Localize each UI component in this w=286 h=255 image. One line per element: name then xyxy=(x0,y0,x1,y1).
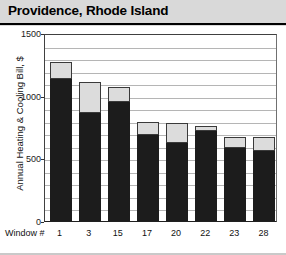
bar-stack[interactable] xyxy=(224,137,246,221)
y-tick-mark xyxy=(41,222,44,223)
bar-stack[interactable] xyxy=(253,137,275,221)
bar-segment-cooling[interactable] xyxy=(79,82,101,113)
bar-stack[interactable] xyxy=(79,82,101,221)
bar-stack[interactable] xyxy=(108,87,130,221)
bar-segment-heating[interactable] xyxy=(108,102,130,221)
bar-segment-cooling[interactable] xyxy=(108,87,130,102)
x-tick-label: 28 xyxy=(246,228,280,238)
bar-segment-heating[interactable] xyxy=(166,143,188,221)
plot-area xyxy=(44,34,277,222)
chart-figure: Providence, Rhode Island Annual Heating … xyxy=(0,0,286,255)
y-tick-label: 1000 xyxy=(10,93,41,102)
bar-segment-heating[interactable] xyxy=(224,148,246,221)
bar-stack[interactable] xyxy=(137,122,159,221)
bar-segment-cooling[interactable] xyxy=(137,122,159,135)
bar-segment-heating[interactable] xyxy=(79,113,101,221)
bar-stack[interactable] xyxy=(195,126,217,221)
x-axis-caption: Window # xyxy=(5,228,45,238)
bar-segment-cooling[interactable] xyxy=(253,137,275,151)
y-axis-ticks: 1500 1000 500 0 xyxy=(10,0,41,255)
y-tick-label: 1500 xyxy=(10,30,41,39)
bar-segment-cooling[interactable] xyxy=(50,62,72,80)
y-tick-label: 500 xyxy=(10,155,41,164)
bar-segment-heating[interactable] xyxy=(137,135,159,221)
bar-segment-heating[interactable] xyxy=(195,131,217,221)
bar-segment-cooling[interactable] xyxy=(224,137,246,148)
bar-group xyxy=(45,35,276,221)
bar-stack[interactable] xyxy=(50,62,72,221)
bar-segment-cooling[interactable] xyxy=(166,123,188,143)
bar-segment-heating[interactable] xyxy=(50,79,72,221)
bar-stack[interactable] xyxy=(166,123,188,221)
title-divider xyxy=(0,23,286,25)
bar-segment-heating[interactable] xyxy=(253,151,275,221)
x-axis: Window # 13151720222328 xyxy=(0,224,286,244)
